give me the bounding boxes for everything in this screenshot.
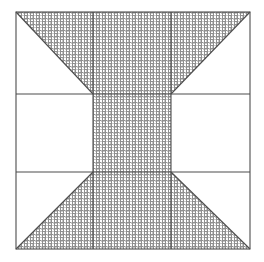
partition-diagram-svg xyxy=(0,0,264,262)
cell-middle-left-white-rect xyxy=(16,94,93,172)
figure-container xyxy=(0,0,264,262)
cell-bottom-center-rect-hatch xyxy=(93,172,171,249)
cell-top-center-rect-hatch xyxy=(93,12,171,94)
cell-middle-center-rect-hatch xyxy=(93,94,171,172)
cell-middle-right-white-rect xyxy=(171,94,250,172)
